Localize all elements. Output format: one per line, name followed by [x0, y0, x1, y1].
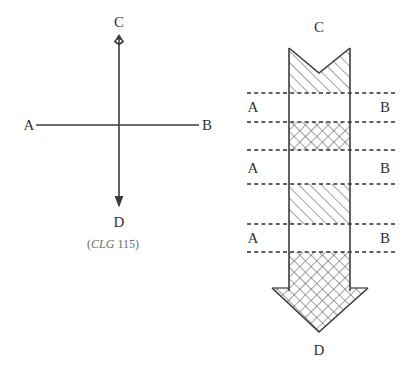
- right-label-a-1: A: [248, 99, 259, 115]
- band-4-diagonal-hatch: [285, 180, 357, 230]
- right-label-b-2: B: [380, 160, 390, 176]
- left-diagram: C D A B (CLG 115): [24, 14, 212, 251]
- right-label-d: D: [314, 342, 325, 358]
- left-label-a: A: [24, 117, 35, 133]
- caption-number-part: 115: [114, 237, 135, 251]
- caption: (CLG 115): [87, 237, 139, 251]
- figure-svg: C D A B (CLG 115): [0, 0, 417, 373]
- right-label-b-1: B: [380, 99, 390, 115]
- hatch-fills: [268, 40, 374, 338]
- right-diagram: C D A B A B A B: [247, 19, 397, 358]
- left-label-c: C: [114, 14, 124, 30]
- band-6-cross-hatch: [268, 248, 374, 338]
- right-label-b-3: B: [380, 230, 390, 246]
- svg-text:(CLG 115): (CLG 115): [87, 237, 139, 251]
- left-label-b: B: [202, 117, 212, 133]
- left-bottom-arrowhead-icon: [115, 196, 124, 208]
- caption-italic-part: CLG: [91, 237, 115, 251]
- dashed-reference-lines: [247, 93, 397, 252]
- right-label-a-3: A: [248, 230, 259, 246]
- figure-container: C D A B (CLG 115): [0, 0, 417, 373]
- left-label-d: D: [114, 214, 125, 230]
- right-label-a-2: A: [248, 160, 259, 176]
- right-label-c: C: [314, 19, 324, 35]
- caption-close-paren: ): [135, 237, 139, 251]
